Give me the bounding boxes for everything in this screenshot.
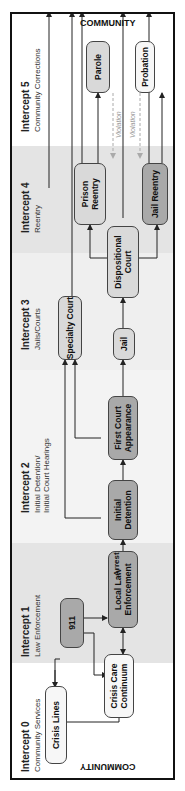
node-probation: Probation [135, 41, 155, 93]
diagram-frame: Intercept 0 Community Services Intercept… [10, 12, 175, 780]
node-crisis-lines: Crisis Lines [45, 686, 67, 764]
community-top: COMMUNITY [80, 18, 136, 28]
connector-lines [12, 12, 175, 778]
node-parole: Parole [86, 41, 110, 93]
node-crisis-care-continuum: Crisis Care Continuum [104, 654, 134, 718]
node-jail: Jail [113, 328, 135, 360]
node-specialty-court: Specialty Court [58, 296, 82, 360]
node-initial-detention: Initial Detention [108, 480, 138, 540]
node-prison-reentry: Prison Reentry [74, 163, 106, 225]
violation-label-probation: Violation [129, 111, 136, 138]
diagram-stage: Intercept 0 Community Services Intercept… [0, 0, 185, 791]
node-dispositional-court: Dispositional Court [107, 226, 139, 298]
node-first-court-appearance: First Court Appearance [108, 396, 138, 460]
node-911: 911 [60, 598, 84, 648]
violation-label-parole: Violation [115, 111, 122, 138]
node-jail-reentry: Jail Reentry [142, 163, 168, 225]
arrest-label: Arrest [112, 552, 121, 576]
community-bottom: COMMUNITY [80, 762, 136, 772]
